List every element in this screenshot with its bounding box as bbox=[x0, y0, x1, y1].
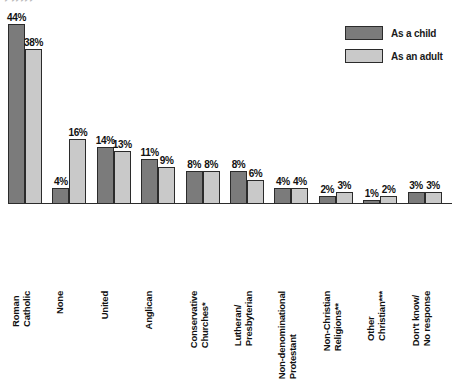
bar-group: 2%3% bbox=[319, 8, 363, 204]
bar-group: 4%4% bbox=[274, 8, 318, 204]
bar-value-label: 13% bbox=[113, 140, 132, 150]
category-label-cell: Don't know/No response bbox=[408, 207, 452, 294]
category-label: Non-denominationalProtestant bbox=[277, 291, 298, 379]
bar-value-label: 3% bbox=[426, 181, 440, 191]
category-label-cell: Lutheran/Presbyterian bbox=[230, 207, 274, 294]
bar-groups: 44%38%4%16%14%13%11%9%8%8%8%6%4%4%2%3%1%… bbox=[8, 8, 452, 204]
category-label: ConservativeChurches* bbox=[189, 291, 210, 348]
category-label: None bbox=[55, 291, 66, 314]
bar-child: 8% bbox=[186, 8, 203, 204]
bar-rect bbox=[69, 139, 86, 204]
bar-group: 44%38% bbox=[8, 8, 52, 204]
bar-rect bbox=[141, 159, 158, 204]
bar-value-label: 14% bbox=[96, 136, 115, 146]
bar-value-label: 11% bbox=[141, 148, 159, 158]
bar-value-label: 4% bbox=[54, 177, 68, 187]
x-axis-category-labels: RomanCatholicNoneUnitedAnglicanConservat… bbox=[8, 207, 452, 294]
bar-group: 3%3% bbox=[408, 8, 452, 204]
bar-value-label: 3% bbox=[409, 181, 423, 191]
bar-child: 1% bbox=[363, 8, 380, 204]
bar-child: 14% bbox=[97, 8, 114, 204]
bar-rect bbox=[158, 167, 175, 204]
category-label: OtherChristian*** bbox=[366, 291, 387, 341]
bar-child: 11% bbox=[141, 8, 158, 204]
bar-value-label: 1% bbox=[365, 189, 379, 199]
category-label: Non-ChristianReligions** bbox=[322, 291, 343, 351]
bar-value-label: 6% bbox=[249, 169, 263, 179]
category-label-cell: United bbox=[97, 207, 141, 294]
bar-adult: 16% bbox=[69, 8, 86, 204]
bar-value-label: 2% bbox=[320, 185, 334, 195]
clipped-header-artifact: ‣ ‣‣‣‣‣ bbox=[4, 0, 33, 3]
bar-adult: 2% bbox=[380, 8, 397, 204]
bar-rect bbox=[25, 49, 42, 204]
bar-rect bbox=[186, 171, 203, 204]
bar-value-label: 9% bbox=[160, 156, 174, 166]
bar-value-label: 8% bbox=[187, 160, 201, 170]
bar-adult: 6% bbox=[247, 8, 264, 204]
bar-value-label: 44% bbox=[7, 13, 26, 23]
bar-child: 4% bbox=[52, 8, 69, 204]
bar-rect bbox=[291, 188, 308, 204]
category-label: United bbox=[100, 291, 111, 319]
category-label: Anglican bbox=[144, 291, 155, 330]
category-label: Don't know/No response bbox=[411, 291, 432, 346]
bar-value-label: 3% bbox=[337, 181, 351, 191]
bar-adult: 8% bbox=[203, 8, 220, 204]
bar-value-label: 4% bbox=[293, 177, 307, 187]
bar-rect bbox=[203, 171, 220, 204]
bar-value-label: 38% bbox=[24, 38, 43, 48]
bar-child: 8% bbox=[230, 8, 247, 204]
bar-value-label: 8% bbox=[232, 160, 246, 170]
bar-group: 8%6% bbox=[230, 8, 274, 204]
bar-adult: 38% bbox=[25, 8, 42, 204]
bar-group: 1%2% bbox=[363, 8, 407, 204]
category-label-cell: OtherChristian*** bbox=[363, 207, 407, 294]
bar-adult: 4% bbox=[291, 8, 308, 204]
bar-child: 2% bbox=[319, 8, 336, 204]
bar-group: 8%8% bbox=[186, 8, 230, 204]
bar-value-label: 8% bbox=[204, 160, 218, 170]
bar-child: 4% bbox=[274, 8, 291, 204]
category-label: RomanCatholic bbox=[11, 291, 32, 327]
bar-rect bbox=[114, 151, 131, 204]
category-label-cell: ConservativeChurches* bbox=[186, 207, 230, 294]
bar-value-label: 4% bbox=[276, 177, 290, 187]
x-axis-baseline bbox=[8, 203, 452, 204]
bar-group: 14%13% bbox=[97, 8, 141, 204]
category-label-cell: RomanCatholic bbox=[8, 207, 52, 294]
bar-rect bbox=[97, 147, 114, 204]
bar-rect bbox=[230, 171, 247, 204]
bar-adult: 3% bbox=[425, 8, 442, 204]
bar-child: 3% bbox=[408, 8, 425, 204]
category-label-cell: Anglican bbox=[141, 207, 185, 294]
bar-rect bbox=[274, 188, 291, 204]
category-label-cell: None bbox=[52, 207, 96, 294]
bar-adult: 13% bbox=[114, 8, 131, 204]
bar-adult: 9% bbox=[158, 8, 175, 204]
bar-value-label: 2% bbox=[382, 185, 396, 195]
category-label: Lutheran/Presbyterian bbox=[233, 291, 254, 346]
bar-rect bbox=[8, 24, 25, 204]
bar-child: 44% bbox=[8, 8, 25, 204]
bar-adult: 3% bbox=[336, 8, 353, 204]
category-label-cell: Non-denominationalProtestant bbox=[274, 207, 318, 294]
bar-group: 11%9% bbox=[141, 8, 185, 204]
bar-value-label: 16% bbox=[68, 128, 87, 138]
category-label-cell: Non-ChristianReligions** bbox=[319, 207, 363, 294]
bar-rect bbox=[247, 180, 264, 205]
bar-rect bbox=[52, 188, 69, 204]
plot-area: 44%38%4%16%14%13%11%9%8%8%8%6%4%4%2%3%1%… bbox=[8, 8, 452, 204]
bar-group: 4%16% bbox=[52, 8, 96, 204]
